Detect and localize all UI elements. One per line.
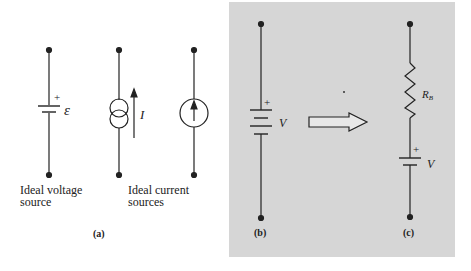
terminal-dot xyxy=(47,48,52,53)
caption-c: (c) xyxy=(403,227,414,239)
resistor-with-source-c xyxy=(399,24,421,217)
ideal-voltage-source xyxy=(38,50,60,175)
polarity-plus-b: + xyxy=(264,96,270,108)
caption-a: (a) xyxy=(93,228,105,240)
terminal-dot xyxy=(259,22,264,27)
terminal-dot xyxy=(117,173,122,178)
emf-symbol: ε xyxy=(64,102,70,118)
speck xyxy=(343,91,345,93)
terminal-dot xyxy=(47,173,52,178)
terminal-dot xyxy=(117,48,122,53)
voltage-symbol-b: V xyxy=(279,116,288,130)
current-sources-label-line2: sources xyxy=(128,195,164,209)
voltage-symbol-c: V xyxy=(427,157,436,171)
terminal-dot xyxy=(408,215,413,220)
polarity-plus-c: + xyxy=(413,143,419,155)
terminal-dot xyxy=(192,48,197,53)
resistor-label: RB xyxy=(421,88,434,102)
ideal-current-source-arrow-circle xyxy=(180,50,208,175)
terminal-dot xyxy=(192,173,197,178)
terminal-dot xyxy=(259,216,264,221)
equivalence-arrow xyxy=(309,113,367,131)
polarity-plus: + xyxy=(54,91,60,103)
ideal-current-source-double-circle xyxy=(110,50,137,175)
circuit-diagram: + ε I Ideal voltage source Ideal current… xyxy=(0,0,471,271)
battery-source-b xyxy=(250,24,272,218)
voltage-source-label-line2: source xyxy=(20,195,51,209)
current-symbol: I xyxy=(139,107,145,122)
caption-b: (b) xyxy=(254,227,266,239)
terminal-dot xyxy=(408,22,413,27)
